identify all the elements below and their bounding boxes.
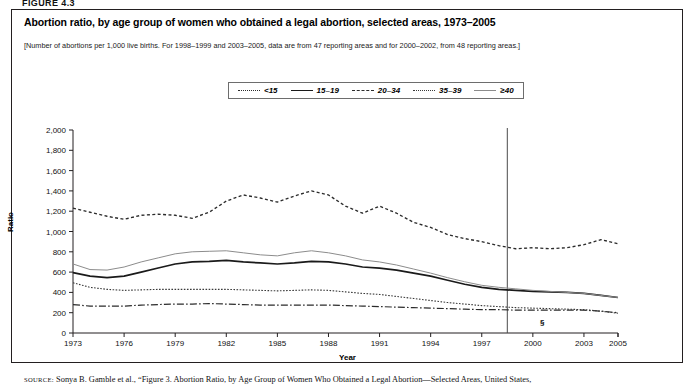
y-tick-label: 200 xyxy=(26,308,66,317)
x-tick-label: 2000 xyxy=(513,339,553,348)
figure-label: FIGURE 4.3 xyxy=(22,0,75,8)
x-tick-label: 2005 xyxy=(598,339,638,348)
legend-item-1: <15 xyxy=(238,86,278,95)
legend-swatch-icon xyxy=(291,87,313,94)
y-tick-label: 0 xyxy=(26,329,66,338)
y-tick-label: 1,000 xyxy=(26,227,66,236)
legend-item-5: ≥40 xyxy=(474,86,513,95)
chart-legend: <1515–1920–3435–39≥40 xyxy=(228,82,524,99)
figure-title: Abortion ratio, by age group of women wh… xyxy=(24,16,644,28)
x-tick-label: 1973 xyxy=(53,339,93,348)
legend-item-label: ≥40 xyxy=(500,86,513,95)
figure-page: FIGURE 4.3 Abortion ratio, by age group … xyxy=(0,0,695,391)
series-line-4 xyxy=(73,283,618,313)
legend-item-4: 35–39 xyxy=(413,86,461,95)
x-tick-label: 1979 xyxy=(155,339,195,348)
legend-swatch-icon xyxy=(238,87,260,94)
y-axis-title: Ratio xyxy=(6,212,15,232)
x-tick-label: 1991 xyxy=(360,339,400,348)
x-tick-label: 1976 xyxy=(104,339,144,348)
y-tick-label: 1,400 xyxy=(26,186,66,195)
series-line-3 xyxy=(73,304,618,313)
y-tick-label: 1,200 xyxy=(26,207,66,216)
legend-swatch-icon xyxy=(352,87,374,94)
x-tick-label: 1988 xyxy=(308,339,348,348)
legend-item-3: 20–34 xyxy=(352,86,400,95)
plot-area xyxy=(73,130,618,333)
legend-item-2: 15–19 xyxy=(291,86,339,95)
y-tick-label: 2,000 xyxy=(26,126,66,135)
legend-item-label: 15–19 xyxy=(317,86,339,95)
y-tick-label: 1,600 xyxy=(26,166,66,175)
x-tick-label: 1982 xyxy=(206,339,246,348)
y-tick-label: 600 xyxy=(26,268,66,277)
source-note: SOURCE: Sonya B. Gamble et al., “Figure … xyxy=(24,374,674,385)
legend-swatch-icon xyxy=(413,87,435,94)
series-line-5 xyxy=(73,251,618,298)
x-axis-title: Year xyxy=(0,353,695,362)
y-tick-label: 1,800 xyxy=(26,146,66,155)
figure-subtitle: [Number of abortions per 1,000 live birt… xyxy=(24,41,654,50)
source-smallcaps: SOURCE: xyxy=(24,376,54,383)
legend-item-label: 20–34 xyxy=(378,86,400,95)
y-tick-label: 800 xyxy=(26,247,66,256)
line-chart-svg xyxy=(73,130,618,333)
series-line-1 xyxy=(73,191,618,249)
x-tick-label: 1994 xyxy=(411,339,451,348)
x-tick-label: 1997 xyxy=(462,339,502,348)
legend-item-label: <15 xyxy=(264,86,278,95)
y-tick-label: 400 xyxy=(26,288,66,297)
x-tick-label: 1985 xyxy=(257,339,297,348)
legend-swatch-icon xyxy=(474,87,496,94)
legend-item-label: 35–39 xyxy=(439,86,461,95)
